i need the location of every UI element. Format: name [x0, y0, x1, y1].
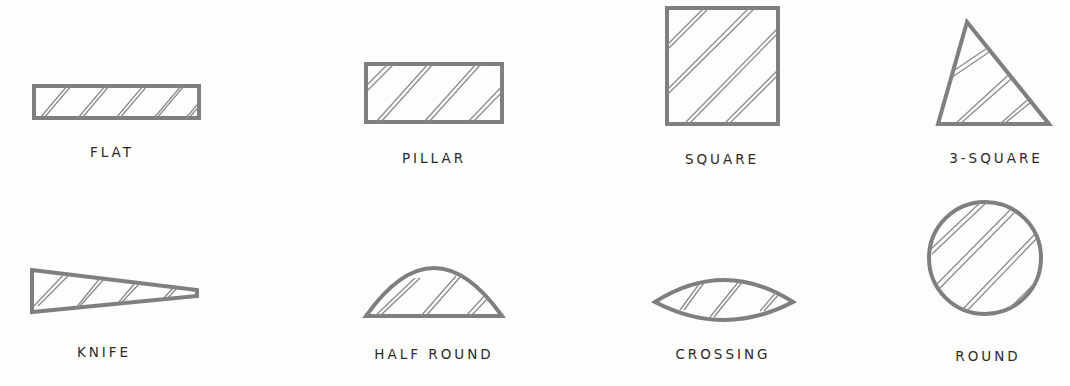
label-knife: KNIFE [77, 344, 131, 360]
label-half-round: HALF ROUND [374, 346, 493, 362]
label-pillar: PILLAR [402, 150, 466, 166]
half-round-outline [366, 268, 502, 316]
shape-three-square: 3-SQUARE [938, 22, 1049, 166]
shape-half-round: HALF ROUND [366, 268, 502, 362]
label-crossing: CROSSING [675, 346, 770, 362]
three-square-outline [938, 22, 1049, 124]
knife-outline [32, 270, 197, 312]
label-three-square: 3-SQUARE [949, 150, 1043, 166]
square-outline [667, 8, 778, 124]
shape-crossing: CROSSING [655, 280, 793, 362]
label-square: SQUARE [685, 151, 759, 167]
label-round: ROUND [955, 348, 1020, 364]
file-shapes-diagram: FLAT PILLAR SQUARE 3-SQUARE KNIFE [0, 0, 1070, 386]
round-outline [929, 202, 1041, 314]
label-flat: FLAT [90, 144, 134, 160]
shape-round: ROUND [929, 198, 1042, 364]
flat-outline [34, 86, 199, 118]
shape-knife: KNIFE [32, 270, 197, 360]
shape-flat: FLAT [34, 86, 216, 160]
shape-square: SQUARE [667, 7, 780, 167]
shape-pillar: PILLAR [360, 62, 506, 166]
